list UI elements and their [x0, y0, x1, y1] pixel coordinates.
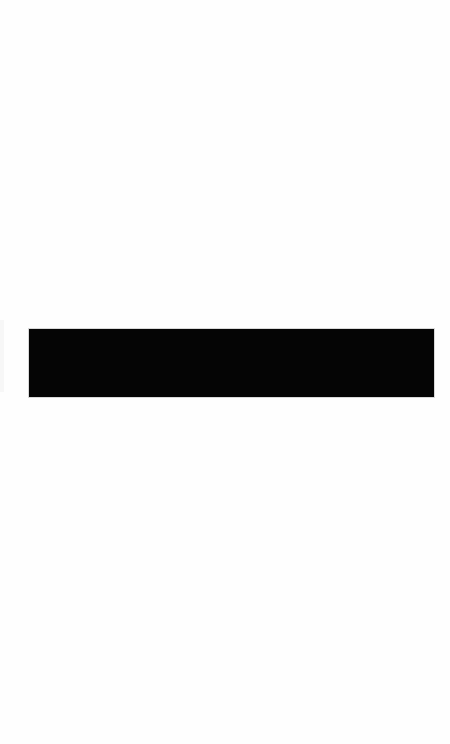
page-canvas [0, 0, 450, 744]
left-edge-strip [0, 320, 4, 392]
black-media-block [29, 329, 434, 397]
media-block-label [29, 329, 434, 397]
